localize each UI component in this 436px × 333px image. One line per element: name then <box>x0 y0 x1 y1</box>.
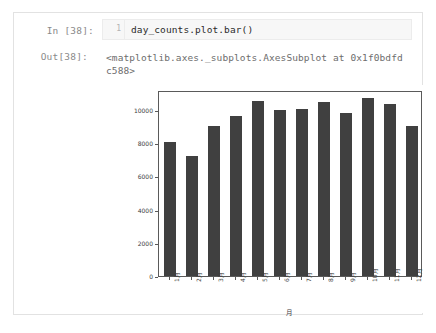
y-tick-mark <box>155 244 158 245</box>
bar <box>296 109 309 276</box>
x-axis-label: 月 <box>286 307 293 317</box>
x-tick-label: 8月 <box>326 272 335 282</box>
matplotlib-figure: 0200040006000800010000 1月2月3月4月5月6月7月8月9… <box>132 85 424 313</box>
bar <box>186 156 199 276</box>
bar <box>318 102 331 276</box>
bar <box>384 104 397 276</box>
bar <box>208 126 221 276</box>
x-tick-mark <box>257 277 258 280</box>
x-tick-label: 6月 <box>282 272 291 282</box>
x-tick-label: 10月 <box>370 268 379 282</box>
x-tick-mark <box>191 277 192 280</box>
y-tick-label: 4000 <box>132 207 153 214</box>
x-tick-mark <box>301 277 302 280</box>
output-repr-text: <matplotlib.axes._subplots.AxesSubplot a… <box>106 51 406 77</box>
bar <box>274 110 287 276</box>
x-tick-mark <box>213 277 214 280</box>
x-tick-label: 4月 <box>238 272 247 282</box>
x-tick-label: 9月 <box>348 272 357 282</box>
x-tick-label: 12月 <box>414 268 423 282</box>
y-tick-mark <box>155 177 158 178</box>
x-tick-mark <box>279 277 280 280</box>
x-tick-mark <box>345 277 346 280</box>
y-tick-label: 0 <box>132 273 153 280</box>
output-prompt-label: Out[38]: <box>26 51 88 62</box>
line-number-gutter: 1 <box>103 20 125 39</box>
x-tick-label: 11月 <box>392 268 401 282</box>
x-tick-mark <box>411 277 412 280</box>
x-tick-label: 5月 <box>260 272 269 282</box>
code-input-box[interactable]: 1 day_counts.plot.bar() <box>102 19 412 40</box>
bar <box>362 98 375 276</box>
x-tick-mark <box>235 277 236 280</box>
x-tick-label: 2月 <box>194 272 203 282</box>
y-tick-mark <box>155 144 158 145</box>
input-prompt-label: In [38]: <box>32 25 94 36</box>
x-tick-mark <box>323 277 324 280</box>
y-tick-label: 8000 <box>132 140 153 147</box>
x-tick-mark <box>367 277 368 280</box>
bar <box>252 101 265 276</box>
y-tick-label: 2000 <box>132 240 153 247</box>
bar <box>230 116 243 276</box>
x-tick-label: 3月 <box>216 272 225 282</box>
y-tick-label: 6000 <box>132 173 153 180</box>
bar <box>406 126 419 276</box>
screenshot-root: In [38]: 1 day_counts.plot.bar() Out[38]… <box>0 0 436 333</box>
y-tick-mark <box>155 111 158 112</box>
x-tick-mark <box>389 277 390 280</box>
y-tick-mark <box>155 277 158 278</box>
bar-plot-area <box>159 92 421 276</box>
chart-axes <box>158 91 422 277</box>
y-tick-label: 10000 <box>132 107 153 114</box>
bar <box>340 113 353 276</box>
code-input-row: In [38]: 1 day_counts.plot.bar() <box>14 19 424 43</box>
x-tick-label: 7月 <box>304 272 313 282</box>
code-text[interactable]: day_counts.plot.bar() <box>131 24 253 35</box>
x-tick-mark <box>169 277 170 280</box>
bar <box>164 142 177 276</box>
y-tick-mark <box>155 211 158 212</box>
x-tick-label: 1月 <box>172 272 181 282</box>
notebook-cell[interactable]: In [38]: 1 day_counts.plot.bar() Out[38]… <box>13 12 423 315</box>
